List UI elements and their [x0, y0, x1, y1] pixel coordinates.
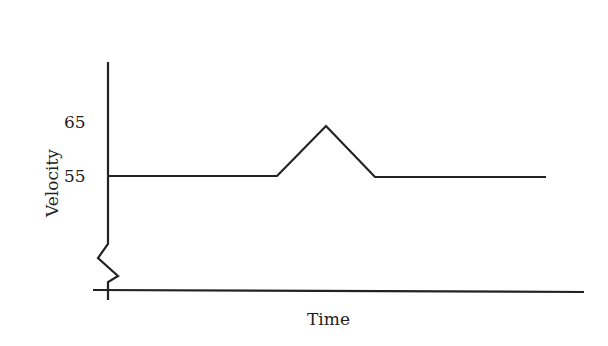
x-axis-label: Time	[307, 311, 350, 328]
y-tick-55: 55	[64, 168, 86, 185]
velocity-line	[108, 126, 546, 177]
x-axis	[93, 290, 584, 292]
y-tick-65: 65	[64, 114, 86, 131]
y-axis-label: Velocity	[44, 149, 61, 217]
y-axis	[98, 62, 118, 300]
velocity-time-chart	[0, 0, 608, 346]
